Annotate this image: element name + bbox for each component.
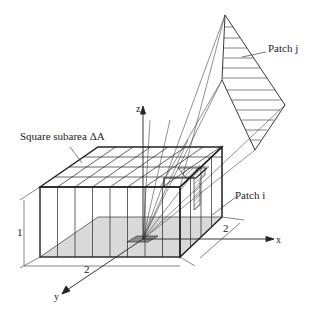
patch-j-label: Patch j [268, 42, 298, 54]
z-axis-label: z [136, 103, 141, 114]
y-axis-label: y [54, 291, 59, 302]
height-dimension-label: 1 [17, 226, 23, 238]
radiosity-hemicube-diagram: Square subarea ΔA Patch j Patch i z x y … [0, 0, 314, 316]
projection-rays [143, 15, 285, 239]
width-dimension-label: 2 [84, 263, 90, 275]
z-axis-arrow-icon [141, 106, 146, 114]
subarea-label: Square subarea ΔA [20, 130, 105, 142]
depth-dimension-label: 2 [223, 222, 229, 234]
x-axis-arrow-icon [266, 237, 274, 242]
patch-i-label: Patch i [235, 189, 265, 201]
x-axis-label: x [276, 234, 281, 245]
y-axis-arrow-icon [62, 286, 70, 294]
floor-shaded-region [40, 217, 222, 257]
